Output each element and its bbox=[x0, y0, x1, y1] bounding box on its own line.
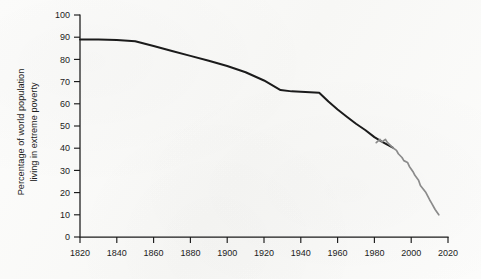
x-tick-label: 1920 bbox=[254, 248, 274, 258]
x-axis-tick-marks bbox=[80, 237, 448, 243]
y-tick-label: 10 bbox=[60, 210, 70, 220]
x-tick-label: 1960 bbox=[328, 248, 348, 258]
y-axis-title-line-2: living in extreme poverty bbox=[29, 82, 39, 181]
series-line-recent-data bbox=[376, 139, 439, 214]
x-axis-tick-labels: 1820184018601880190019201940196019802000… bbox=[70, 248, 458, 258]
chart-axes bbox=[74, 15, 448, 243]
y-axis-tick-marks bbox=[74, 15, 80, 237]
y-tick-label: 50 bbox=[60, 121, 70, 131]
y-tick-label: 20 bbox=[60, 188, 70, 198]
y-axis-tick-labels: 0102030405060708090100 bbox=[55, 10, 70, 242]
y-tick-label: 40 bbox=[60, 143, 70, 153]
poverty-line-chart: 0102030405060708090100 18201840186018801… bbox=[0, 0, 481, 279]
y-tick-label: 90 bbox=[60, 32, 70, 42]
y-tick-label: 0 bbox=[65, 232, 70, 242]
chart-series-group bbox=[80, 39, 439, 214]
x-tick-label: 1940 bbox=[291, 248, 311, 258]
x-tick-label: 1980 bbox=[364, 248, 384, 258]
x-tick-label: 1820 bbox=[70, 248, 90, 258]
y-tick-label: 70 bbox=[60, 77, 70, 87]
axis-frame bbox=[80, 15, 448, 237]
x-tick-label: 2020 bbox=[438, 248, 458, 258]
y-tick-label: 30 bbox=[60, 166, 70, 176]
x-tick-label: 1880 bbox=[180, 248, 200, 258]
y-axis-title-line-1: Percentage of world population bbox=[16, 69, 26, 196]
series-line-historical-estimate bbox=[80, 39, 393, 147]
y-tick-label: 60 bbox=[60, 99, 70, 109]
y-tick-label: 80 bbox=[60, 55, 70, 65]
x-tick-label: 1860 bbox=[144, 248, 164, 258]
x-tick-label: 2000 bbox=[401, 248, 421, 258]
x-tick-label: 1900 bbox=[217, 248, 237, 258]
chart-canvas: 0102030405060708090100 18201840186018801… bbox=[0, 0, 481, 279]
x-tick-label: 1840 bbox=[107, 248, 127, 258]
y-axis-title: Percentage of world population living in… bbox=[16, 69, 39, 196]
y-tick-label: 100 bbox=[55, 10, 70, 20]
